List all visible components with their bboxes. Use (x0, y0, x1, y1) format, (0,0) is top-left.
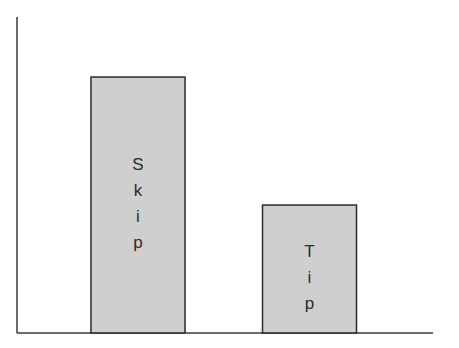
bar-chart: SkipTip (0, 0, 459, 348)
bar-label-letter: p (133, 233, 142, 252)
bar-label-letter: i (308, 268, 312, 287)
bar-label-letter: k (134, 181, 143, 200)
bar-label-letter: S (132, 155, 143, 174)
bar-label-letter: p (305, 294, 314, 313)
bar-label-letter: i (136, 207, 140, 226)
bar-skip (91, 77, 185, 333)
bar-label-letter: T (304, 242, 314, 261)
